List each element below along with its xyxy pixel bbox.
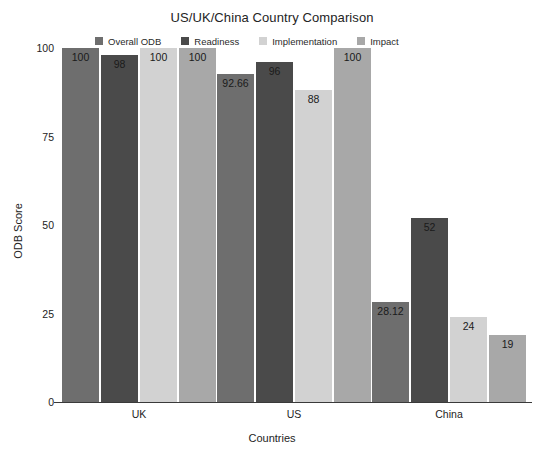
x-tick-label-us: US	[287, 408, 302, 420]
bar[interactable]: 52	[411, 218, 448, 402]
bar[interactable]: 24	[450, 317, 487, 402]
y-tick-label: 100	[8, 42, 54, 54]
bar[interactable]: 19	[489, 335, 526, 402]
bar[interactable]: 88	[295, 90, 332, 402]
bar-group-us: 92.669688100	[217, 48, 371, 402]
bar-slot: 100	[140, 48, 177, 402]
y-tick-label: 75	[8, 131, 54, 143]
bar-value-label: 100	[189, 51, 207, 63]
bar-value-label: 100	[150, 51, 168, 63]
bar-value-label: 96	[269, 65, 281, 77]
bar-slot: 52	[411, 48, 448, 402]
bar-slot: 24	[450, 48, 487, 402]
bar-slot: 96	[256, 48, 293, 402]
bar[interactable]: 100	[140, 48, 177, 402]
legend-item-implementation[interactable]: Implementation	[259, 36, 337, 47]
legend-item-impact[interactable]: Impact	[357, 36, 399, 47]
bar-value-label: 52	[424, 221, 436, 233]
bar-value-label: 88	[308, 93, 320, 105]
bar-slot: 100	[179, 48, 216, 402]
bar-value-label: 28.12	[377, 305, 403, 317]
bar[interactable]: 92.66	[217, 74, 254, 402]
bar-slot: 98	[101, 48, 138, 402]
bar-group-uk: 10098100100	[62, 48, 216, 402]
legend-label: Implementation	[272, 36, 337, 47]
bar[interactable]: 100	[179, 48, 216, 402]
chart-legend: Overall ODB Readiness Implementation Imp…	[95, 33, 455, 49]
chart-title: US/UK/China Country Comparison	[0, 10, 544, 25]
bar[interactable]: 96	[256, 62, 293, 402]
plot-area: 1009810010092.66968810028.12522419	[62, 48, 528, 402]
bar-chart-figure: US/UK/China Country Comparison Overall O…	[0, 0, 544, 462]
bar-slot: 88	[295, 48, 332, 402]
legend-item-readiness[interactable]: Readiness	[181, 36, 239, 47]
x-tick-label-china: China	[435, 408, 462, 420]
bar-value-label: 24	[463, 320, 475, 332]
legend-item-overall-odb[interactable]: Overall ODB	[95, 36, 161, 47]
y-axis-label: ODB Score	[12, 151, 24, 311]
bar[interactable]: 100	[334, 48, 371, 402]
legend-swatch-icon	[357, 37, 365, 45]
legend-label: Overall ODB	[108, 36, 161, 47]
bar-value-label: 19	[502, 338, 514, 350]
y-axis: ODB Score 0255075100	[0, 0, 54, 462]
bar[interactable]: 28.12	[372, 302, 409, 402]
bar-group-china: 28.12522419	[372, 48, 526, 402]
legend-label: Readiness	[194, 36, 239, 47]
bar-value-label: 92.66	[222, 77, 248, 89]
legend-label: Impact	[370, 36, 399, 47]
legend-swatch-icon	[95, 37, 103, 45]
bar-slot: 28.12	[372, 48, 409, 402]
x-axis-label: Countries	[0, 432, 544, 444]
bar-slot: 19	[489, 48, 526, 402]
legend-swatch-icon	[181, 37, 189, 45]
bar-slot: 92.66	[217, 48, 254, 402]
bar-value-label: 98	[114, 58, 126, 70]
y-tick-label: 0	[8, 396, 54, 408]
bar[interactable]: 98	[101, 55, 138, 402]
x-tick-label-uk: UK	[132, 408, 147, 420]
bar-value-label: 100	[344, 51, 362, 63]
bar-value-label: 100	[72, 51, 90, 63]
y-tick-label: 25	[8, 308, 54, 320]
bar[interactable]: 100	[62, 48, 99, 402]
y-tick-label: 50	[8, 219, 54, 231]
bar-slot: 100	[334, 48, 371, 402]
bar-slot: 100	[62, 48, 99, 402]
x-axis-line	[58, 402, 532, 403]
legend-swatch-icon	[259, 37, 267, 45]
